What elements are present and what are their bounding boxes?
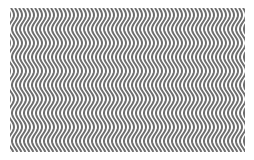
wavy-stripe-pattern <box>10 8 245 152</box>
wave-illusion-graphic <box>10 8 245 152</box>
